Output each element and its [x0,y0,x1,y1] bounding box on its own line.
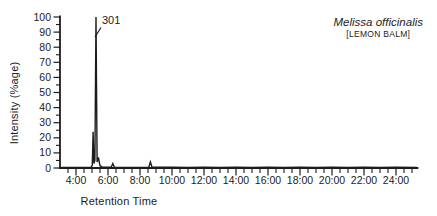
y-tick-label: 60 [39,71,51,83]
peak-annotation-label: 301 [102,14,120,26]
figure-title: Melissa officinalis [LEMON BALM] [334,16,423,40]
x-tick-label: 24:00 [383,174,409,186]
y-tick-label: 20 [39,131,51,143]
y-tick-label: 50 [39,86,51,98]
y-tick-label: 90 [39,26,51,38]
x-tick-label: 8:00 [130,174,151,186]
x-tick-label: 14:00 [223,174,249,186]
y-tick-label: 100 [33,11,51,23]
y-tick-label: 10 [39,146,51,158]
x-tick-label: 20:00 [319,174,345,186]
y-axis-title: Intensity (%age) [8,62,20,145]
common-name: [LEMON BALM] [334,30,423,40]
x-tick-label: 18:00 [287,174,313,186]
x-tick-label: 16:00 [255,174,281,186]
species-name: Melissa officinalis [334,16,423,29]
x-axis-title-wrap: Retention Time [0,195,437,207]
y-tick-label: 70 [39,56,51,68]
chromatogram-figure: 01020304050607080901004:006:008:0010:001… [0,0,437,216]
y-tick-label: 80 [39,41,51,53]
x-tick-label: 4:00 [66,174,87,186]
y-tick-label: 30 [39,116,51,128]
x-axis-title: Retention Time [81,195,158,207]
y-tick-label: 40 [39,101,51,113]
x-tick-label: 10:00 [159,174,185,186]
x-tick-label: 22:00 [351,174,377,186]
x-tick-label: 12:00 [191,174,217,186]
y-tick-label: 0 [45,162,51,174]
x-tick-label: 6:00 [98,174,119,186]
